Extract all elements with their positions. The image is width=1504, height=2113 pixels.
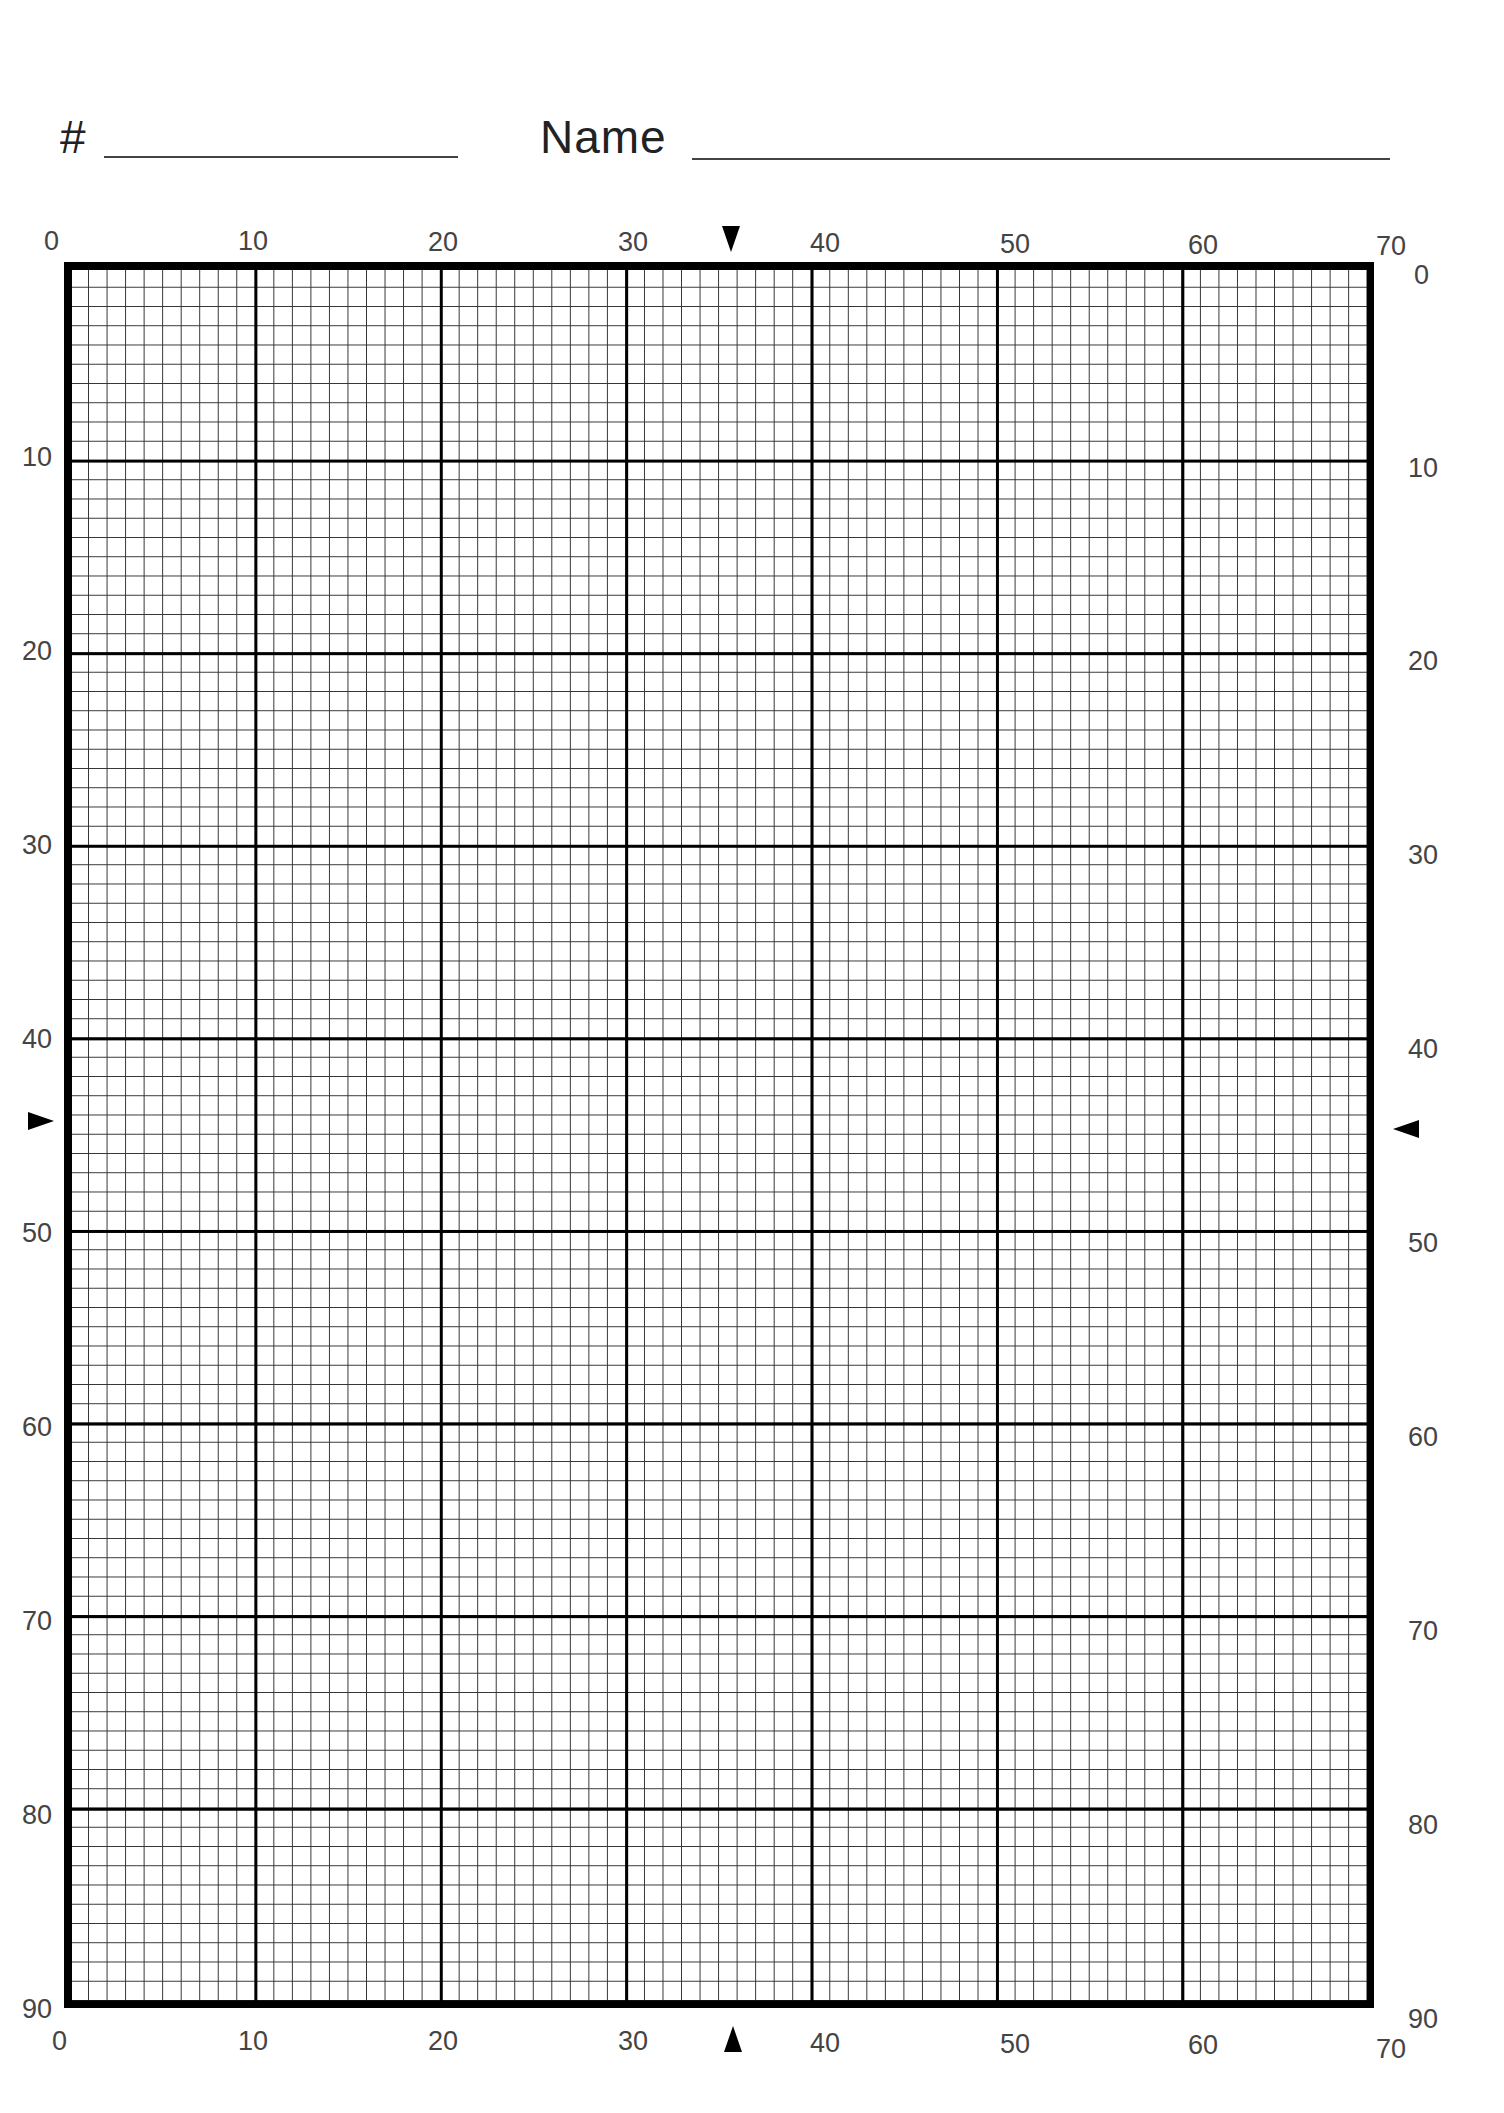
top-axis-label: 10 [238,228,268,255]
top-axis-label: 30 [618,229,648,256]
name-label: Name [540,110,667,164]
left-axis-label: 80 [22,1802,52,1829]
right-axis-label: 30 [1408,842,1438,869]
left-axis-label: 40 [22,1026,52,1053]
bottom-axis-label: 60 [1188,2032,1218,2059]
bottom-axis-label: 0 [52,2028,67,2055]
left-axis-label: 70 [22,1608,52,1635]
top-axis-label: 40 [810,230,840,257]
top-axis-label: 70 [1376,233,1406,260]
right-axis-label: 60 [1408,1424,1438,1451]
top-axis-label: 20 [428,229,458,256]
top-axis-label: 0 [44,228,59,255]
left-axis-label: 50 [22,1220,52,1247]
left-axis-label: 60 [22,1414,52,1441]
bottom-axis-label: 50 [1000,2031,1030,2058]
number-field-line[interactable] [104,156,458,158]
graph-paper-grid [64,262,1374,2008]
right-center-arrow-icon [1393,1120,1419,1138]
bottom-axis-label: 40 [810,2030,840,2057]
bottom-axis-label: 30 [618,2028,648,2055]
number-label: # [60,110,87,164]
right-axis-label: 50 [1408,1230,1438,1257]
left-axis-label: 30 [22,832,52,859]
right-axis-label: 80 [1408,1812,1438,1839]
right-axis-label: 90 [1408,2006,1438,2033]
left-axis-label: 90 [22,1996,52,2023]
top-axis-label: 50 [1000,231,1030,258]
bottom-axis-label: 20 [428,2028,458,2055]
name-field-line[interactable] [692,158,1390,160]
left-center-arrow-icon [28,1112,54,1130]
top-axis-label: 60 [1188,232,1218,259]
bottom-axis-label: 70 [1376,2036,1406,2063]
left-axis-label: 10 [22,444,52,471]
left-axis-label: 20 [22,638,52,665]
bottom-axis-label: 10 [238,2028,268,2055]
bottom-center-arrow-icon [724,2026,742,2052]
right-axis-label: 0 [1414,262,1429,289]
right-axis-label: 20 [1408,648,1438,675]
right-axis-label: 10 [1408,455,1438,482]
right-axis-label: 70 [1408,1618,1438,1645]
right-axis-label: 40 [1408,1036,1438,1063]
top-center-arrow-icon [722,226,740,252]
